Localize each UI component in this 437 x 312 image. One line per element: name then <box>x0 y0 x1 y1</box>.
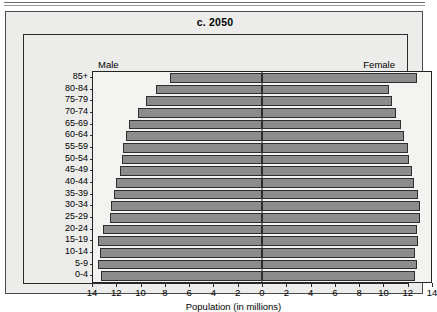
bar-row <box>93 84 431 96</box>
x-axis-title: Population (in millions) <box>41 301 426 312</box>
y-axis-tick-label: 20-24 <box>42 223 88 235</box>
female-bar <box>262 108 396 117</box>
y-axis-tick-label: 85+ <box>42 71 88 83</box>
male-bar <box>129 120 262 129</box>
y-axis-tick-label: 15-19 <box>42 234 88 246</box>
y-axis-tick-label: 45-49 <box>42 164 88 176</box>
chart-panel: c. 2050 Male Female 85+80-8475-7970-7465… <box>5 11 423 294</box>
y-axis-tick-label: 65-69 <box>42 118 88 130</box>
female-bar <box>262 248 415 257</box>
y-axis-tick-mark <box>90 182 93 183</box>
male-bar <box>101 271 262 280</box>
male-bar <box>120 166 262 175</box>
x-axis-tick-label: 4 <box>211 287 216 298</box>
female-bar-cell <box>262 142 431 154</box>
female-bar-cell <box>262 189 431 201</box>
male-bar <box>111 201 262 210</box>
female-bar <box>262 213 420 222</box>
y-axis-tick-mark <box>90 147 93 148</box>
male-bar <box>98 260 262 269</box>
y-axis-tick-label: 40-44 <box>42 176 88 188</box>
male-bar-cell <box>93 165 262 177</box>
male-bar-cell <box>93 259 262 271</box>
y-axis-tick-mark <box>90 264 93 265</box>
female-bar <box>262 178 414 187</box>
x-axis-tick-label: 4 <box>308 287 313 298</box>
bar-row <box>93 247 431 259</box>
bar-row <box>93 212 431 224</box>
bar-row <box>93 107 431 119</box>
y-axis-tick-label: 5-9 <box>42 258 88 270</box>
male-bar-cell <box>93 130 262 142</box>
male-series-label: Male <box>98 59 119 70</box>
female-bar-cell <box>262 72 431 84</box>
top-divider-rule-secondary <box>4 5 425 6</box>
plot-area <box>92 71 432 283</box>
male-bar <box>116 178 262 187</box>
top-divider-rule <box>4 2 425 3</box>
bar-row <box>93 142 431 154</box>
female-bar-cell <box>262 224 431 236</box>
plot-frame: Male Female 85+80-8475-7970-7465-6960-64… <box>23 34 408 284</box>
chart-title: c. 2050 <box>6 16 424 28</box>
male-bar-cell <box>93 95 262 107</box>
male-bar-cell <box>93 119 262 131</box>
female-bar <box>262 260 417 269</box>
male-bar-cell <box>93 189 262 201</box>
x-axis-tick-label: 6 <box>186 287 191 298</box>
female-bar <box>262 271 415 280</box>
male-bar <box>138 108 262 117</box>
female-bar-cell <box>262 270 431 282</box>
x-axis-tick-label: 8 <box>356 287 361 298</box>
female-bar-cell <box>262 154 431 166</box>
y-axis-tick-mark <box>90 124 93 125</box>
bar-row <box>93 270 431 282</box>
male-bar-cell <box>93 177 262 189</box>
y-axis-tick-mark <box>90 77 93 78</box>
y-axis-tick-label: 60-64 <box>42 129 88 141</box>
female-bar-cell <box>262 130 431 142</box>
y-axis-tick-mark <box>90 275 93 276</box>
male-bar <box>114 190 262 199</box>
female-bar <box>262 236 418 245</box>
female-bar <box>262 143 408 152</box>
x-axis-tick-label: 12 <box>111 287 122 298</box>
x-axis-tick-label: 6 <box>332 287 337 298</box>
female-bar <box>262 85 389 94</box>
female-bar-cell <box>262 247 431 259</box>
bar-row <box>93 130 431 142</box>
male-bar-cell <box>93 200 262 212</box>
bar-row <box>93 154 431 166</box>
male-bar <box>98 236 262 245</box>
y-axis-tick-label: 80-84 <box>42 83 88 95</box>
male-bar-cell <box>93 247 262 259</box>
female-bar-cell <box>262 107 431 119</box>
female-bar-cell <box>262 212 431 224</box>
male-bar-cell <box>93 72 262 84</box>
bar-row <box>93 259 431 271</box>
x-axis-tick-label: 14 <box>427 287 437 298</box>
female-bar <box>262 225 417 234</box>
y-axis-tick-label: 70-74 <box>42 106 88 118</box>
x-axis-tick-label: 0 <box>259 287 264 298</box>
x-axis-tick-label: 2 <box>284 287 289 298</box>
y-axis-tick-label: 50-54 <box>42 153 88 165</box>
y-axis-tick-mark <box>90 217 93 218</box>
male-bar-cell <box>93 142 262 154</box>
bar-row <box>93 200 431 212</box>
x-axis-tick-label: 12 <box>402 287 413 298</box>
male-bar <box>100 248 262 257</box>
y-axis-tick-mark <box>90 112 93 113</box>
bar-row <box>93 224 431 236</box>
bar-row <box>93 119 431 131</box>
y-axis-tick-label: 0-4 <box>42 269 88 281</box>
y-axis-tick-labels: 85+80-8475-7970-7465-6960-6455-5950-5445… <box>40 71 88 283</box>
male-bar <box>122 155 262 164</box>
female-bar-cell <box>262 235 431 247</box>
female-bar-cell <box>262 95 431 107</box>
female-bar <box>262 131 404 140</box>
female-bar <box>262 155 409 164</box>
male-bar-cell <box>93 154 262 166</box>
bar-row <box>93 72 431 84</box>
